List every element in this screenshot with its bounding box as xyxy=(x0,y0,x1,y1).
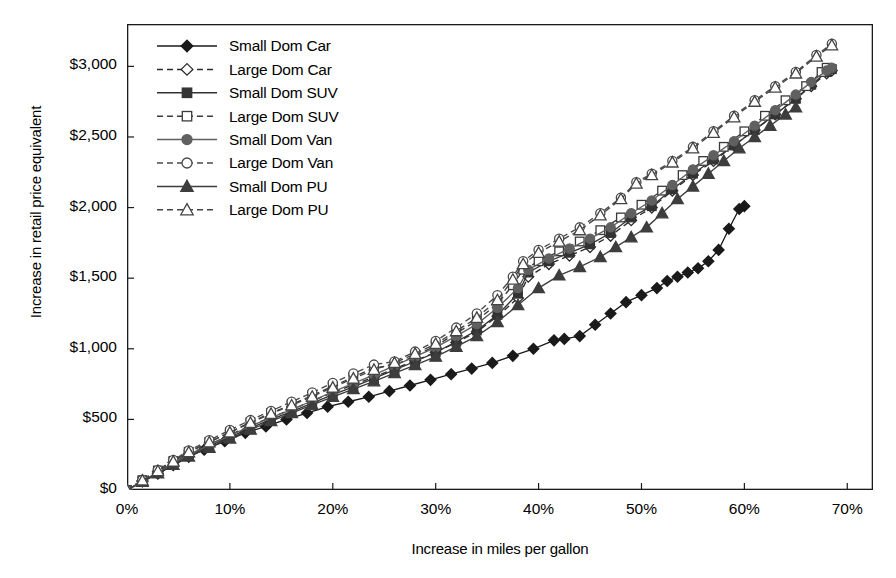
data-marker xyxy=(528,343,539,354)
data-marker xyxy=(182,158,192,168)
series-small-dom-van xyxy=(127,63,836,490)
legend-label: Small Dom Car xyxy=(229,37,331,54)
legend-label: Small Dom PU xyxy=(229,178,328,195)
data-marker xyxy=(466,363,477,374)
data-marker xyxy=(343,396,354,407)
legend-item-large-dom-car[interactable]: Large Dom Car xyxy=(157,61,332,78)
data-marker xyxy=(182,135,192,145)
data-marker xyxy=(590,319,601,330)
data-marker xyxy=(487,358,498,369)
legend-label: Small Dom SUV xyxy=(229,84,339,101)
legend: Small Dom CarLarge Dom CarSmall Dom SUVL… xyxy=(157,37,339,218)
legend-label: Large Dom Car xyxy=(229,61,332,78)
legend-label: Large Dom Van xyxy=(229,154,333,171)
data-marker xyxy=(718,155,730,165)
data-marker xyxy=(724,223,735,234)
data-marker xyxy=(625,231,637,241)
data-marker xyxy=(636,290,647,301)
data-marker xyxy=(384,386,395,397)
data-marker xyxy=(791,90,800,99)
data-marker xyxy=(565,244,574,253)
data-marker xyxy=(363,391,374,402)
data-marker xyxy=(771,106,780,115)
data-marker xyxy=(688,165,697,174)
data-marker xyxy=(181,40,193,52)
data-marker xyxy=(585,234,594,243)
data-marker xyxy=(549,335,560,346)
x-axis-title: Increase in miles per gallon xyxy=(127,540,873,557)
data-marker xyxy=(621,297,632,308)
data-marker xyxy=(446,369,457,380)
legend-label: Large Dom PU xyxy=(229,201,328,218)
data-marker xyxy=(668,180,677,189)
data-marker xyxy=(807,77,816,86)
data-marker xyxy=(652,283,663,294)
data-marker xyxy=(595,251,607,261)
data-marker xyxy=(750,121,759,130)
data-marker xyxy=(827,63,836,72)
data-marker xyxy=(182,88,191,97)
data-marker xyxy=(544,254,553,263)
data-marker xyxy=(574,331,585,342)
data-marker xyxy=(693,263,704,274)
y-axis-title: Increase in retail price equivalent xyxy=(27,62,49,362)
legend-item-large-dom-suv[interactable]: Large Dom SUV xyxy=(157,108,339,125)
data-marker xyxy=(709,151,718,160)
data-marker xyxy=(610,241,622,251)
legend-item-small-dom-van[interactable]: Small Dom Van xyxy=(157,131,332,148)
data-marker xyxy=(405,380,416,391)
data-marker xyxy=(605,308,616,319)
data-marker xyxy=(322,401,333,412)
data-marker xyxy=(703,168,715,178)
data-marker xyxy=(559,334,570,345)
data-marker xyxy=(687,181,699,191)
data-marker xyxy=(627,209,636,218)
plot-svg: Small Dom CarLarge Dom CarSmall Dom SUVL… xyxy=(127,24,873,490)
data-marker xyxy=(425,374,436,385)
data-marker xyxy=(647,196,656,205)
data-marker xyxy=(513,283,522,292)
plot-area: Small Dom CarLarge Dom CarSmall Dom SUVL… xyxy=(127,24,873,490)
data-marker xyxy=(682,267,693,278)
data-marker xyxy=(182,112,191,121)
legend-item-small-dom-suv[interactable]: Small Dom SUV xyxy=(157,84,339,101)
legend-label: Large Dom SUV xyxy=(229,108,339,125)
data-marker xyxy=(533,282,545,292)
data-marker xyxy=(729,137,738,146)
data-marker xyxy=(507,350,518,361)
legend-label: Small Dom Van xyxy=(229,131,332,148)
data-marker xyxy=(662,276,673,287)
legend-item-small-dom-car[interactable]: Small Dom Car xyxy=(157,37,331,54)
legend-item-large-dom-van[interactable]: Large Dom Van xyxy=(157,154,333,171)
legend-item-small-dom-pu[interactable]: Small Dom PU xyxy=(157,178,328,195)
data-marker xyxy=(606,223,615,232)
data-marker xyxy=(672,271,683,282)
chart-figure: Increase in retail price equivalent Incr… xyxy=(0,0,896,578)
data-marker xyxy=(553,270,565,280)
data-marker xyxy=(181,64,193,76)
data-marker xyxy=(574,261,586,271)
legend-item-large-dom-pu[interactable]: Large Dom PU xyxy=(157,201,328,218)
